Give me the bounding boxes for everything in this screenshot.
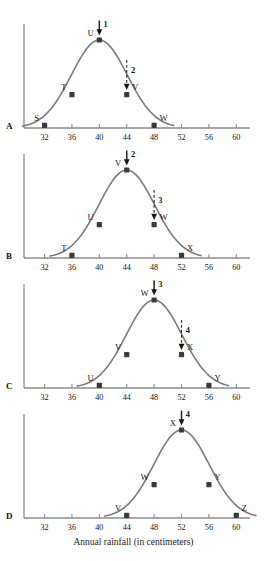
data-point-marker xyxy=(124,513,129,518)
panel-b: 3236404448525660TUVWX23B xyxy=(0,148,267,292)
point-label: W xyxy=(140,472,149,482)
x-tick-label: 36 xyxy=(68,393,76,402)
arrow-label: 4 xyxy=(186,326,191,335)
arrow-label: 1 xyxy=(104,20,108,29)
point-label: W xyxy=(160,113,169,123)
distribution-curve xyxy=(105,430,256,516)
x-tick-label: 48 xyxy=(150,263,158,272)
x-axis-caption: Annual rainfall (in centimeters) xyxy=(0,537,267,547)
x-tick-label: 52 xyxy=(177,263,185,272)
data-point-marker xyxy=(234,513,239,518)
x-tick-label: 48 xyxy=(150,133,158,142)
arrow-label: 3 xyxy=(158,280,162,289)
point-label: U xyxy=(88,28,95,38)
distribution-curve xyxy=(77,300,228,386)
data-point-marker xyxy=(124,167,129,172)
x-tick-label: 32 xyxy=(40,263,48,272)
arrow-head xyxy=(124,159,130,165)
data-point-marker xyxy=(124,92,129,97)
x-tick-label: 48 xyxy=(150,523,158,532)
x-tick-label: 56 xyxy=(205,263,213,272)
point-label: V xyxy=(115,158,122,168)
point-label: X xyxy=(187,243,194,253)
point-label: W xyxy=(140,288,149,298)
x-tick-label: 44 xyxy=(123,393,131,402)
panel-d: 3236404448525660VWXYZ4D xyxy=(0,408,267,552)
data-point-marker xyxy=(152,222,157,227)
data-point-marker xyxy=(206,482,211,487)
panel-a: 3236404448525660STUVW12A xyxy=(0,18,267,162)
arrow-label: 3 xyxy=(158,196,162,205)
x-tick-label: 40 xyxy=(95,263,103,272)
data-point-marker xyxy=(179,427,184,432)
x-tick-label: 60 xyxy=(232,523,240,532)
data-point-marker xyxy=(152,123,157,128)
data-point-marker xyxy=(152,297,157,302)
arrow-head xyxy=(96,29,102,35)
x-tick-label: 40 xyxy=(95,133,103,142)
point-label: S xyxy=(34,113,39,123)
point-label: U xyxy=(88,373,95,383)
x-tick-label: 44 xyxy=(123,523,131,532)
x-tick-label: 36 xyxy=(68,263,76,272)
arrow-head xyxy=(124,84,130,90)
point-label: V xyxy=(115,503,122,513)
data-point-marker xyxy=(206,383,211,388)
arrow-head xyxy=(151,289,157,295)
arrow-head xyxy=(179,344,185,350)
point-label: U xyxy=(88,212,95,222)
arrow-label: 2 xyxy=(131,150,135,159)
x-tick-label: 32 xyxy=(40,133,48,142)
point-label: X xyxy=(187,342,194,352)
x-tick-label: 52 xyxy=(177,393,185,402)
x-tick-label: 60 xyxy=(232,263,240,272)
data-point-marker xyxy=(69,253,74,258)
point-label: Y xyxy=(214,472,220,482)
x-tick-label: 60 xyxy=(232,393,240,402)
point-label: Y xyxy=(214,373,220,383)
x-tick-label: 36 xyxy=(68,133,76,142)
panel-letter-a: A xyxy=(6,121,13,131)
x-tick-label: 60 xyxy=(232,133,240,142)
x-tick-label: 40 xyxy=(95,393,103,402)
arrow-label: 2 xyxy=(131,66,135,75)
data-point-marker xyxy=(42,123,47,128)
data-point-marker xyxy=(124,352,129,357)
point-label: Z xyxy=(242,503,247,513)
x-tick-label: 32 xyxy=(40,393,48,402)
point-label: V xyxy=(115,342,122,352)
point-label: V xyxy=(132,82,139,92)
point-label: T xyxy=(61,82,67,92)
point-label: W xyxy=(160,212,169,222)
panel-c: 3236404448525660UVWXY34C xyxy=(0,278,267,422)
x-tick-label: 44 xyxy=(123,133,131,142)
x-tick-label: 56 xyxy=(205,393,213,402)
x-tick-label: 32 xyxy=(40,523,48,532)
distribution-curve xyxy=(50,170,201,256)
arrow-head xyxy=(151,214,157,220)
distribution-curve xyxy=(23,40,174,126)
panel-letter-c: C xyxy=(6,381,13,391)
data-point-marker xyxy=(152,482,157,487)
x-tick-label: 36 xyxy=(68,523,76,532)
x-tick-label: 48 xyxy=(150,393,158,402)
point-label: X xyxy=(170,418,177,428)
arrow-head xyxy=(179,419,185,425)
x-tick-label: 44 xyxy=(123,263,131,272)
rainfall-distribution-figure: 3236404448525660STUVW12A3236404448525660… xyxy=(0,0,267,561)
panel-letter-d: D xyxy=(6,511,13,521)
data-point-marker xyxy=(69,92,74,97)
data-point-marker xyxy=(179,352,184,357)
x-tick-label: 52 xyxy=(177,133,185,142)
x-tick-label: 52 xyxy=(177,523,185,532)
data-point-marker xyxy=(97,222,102,227)
x-tick-label: 40 xyxy=(95,523,103,532)
arrow-label: 4 xyxy=(186,410,191,419)
data-point-marker xyxy=(97,37,102,42)
x-tick-label: 56 xyxy=(205,523,213,532)
data-point-marker xyxy=(179,253,184,258)
point-label: T xyxy=(61,243,67,253)
data-point-marker xyxy=(97,383,102,388)
x-tick-label: 56 xyxy=(205,133,213,142)
panel-letter-b: B xyxy=(6,251,12,261)
